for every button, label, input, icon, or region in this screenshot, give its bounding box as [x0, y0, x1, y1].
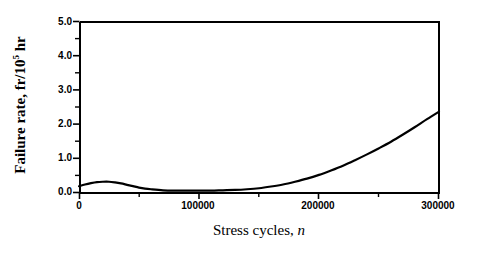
failure-rate-curve — [79, 112, 439, 191]
chart-figure: Failure rate, fr/105 hr Stress cycles, n… — [0, 0, 490, 263]
plot-area — [0, 0, 490, 263]
axis-frame — [80, 22, 440, 193]
